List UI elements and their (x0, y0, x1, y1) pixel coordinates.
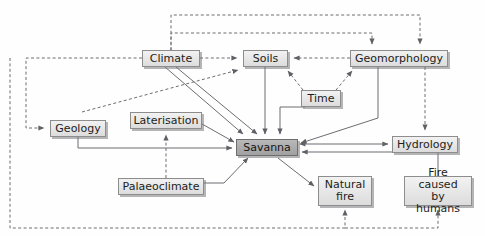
edge-time-soils (288, 71, 303, 90)
node-laterisation[interactable]: Laterisation (130, 112, 202, 129)
edge-geology-savanna (78, 137, 232, 148)
edge-palaeoclimate-savanna (204, 158, 248, 183)
node-fire-caused-by-humans[interactable]: Fire causedby humans (404, 176, 472, 206)
node-label: Palaeoclimate (123, 181, 200, 193)
node-label: Time (308, 93, 335, 105)
node-geology[interactable]: Geology (50, 120, 106, 137)
node-label: Naturalfire (325, 179, 366, 203)
edge-time-geomorphology (336, 71, 352, 90)
node-label: Geology (55, 123, 100, 135)
node-geomorphology[interactable]: Geomorphology (350, 50, 448, 67)
node-label: Soils (253, 53, 279, 65)
node-label: Hydrology (397, 139, 453, 151)
node-palaeoclimate[interactable]: Palaeoclimate (118, 178, 204, 195)
node-hydrology[interactable]: Hydrology (392, 136, 458, 153)
node-climate[interactable]: Climate (142, 50, 200, 67)
node-label: Climate (150, 53, 192, 65)
diagram-canvas: Climate Soils Geomorphology Time Geology… (0, 0, 485, 236)
node-label: Savanna (243, 142, 291, 154)
edge-laterisation-savanna (202, 124, 234, 142)
edge-geology-soils (82, 70, 238, 112)
edge-climate-geology (26, 58, 142, 128)
edge-time-savanna (280, 107, 305, 134)
node-label: Laterisation (133, 115, 198, 127)
node-time[interactable]: Time (301, 90, 341, 107)
edge-savanna-natural-fire (278, 158, 314, 186)
node-savanna[interactable]: Savanna (236, 139, 298, 156)
node-label: Geomorphology (355, 53, 443, 65)
node-label: Fire causedby humans (408, 167, 468, 215)
node-natural-fire[interactable]: Naturalfire (318, 176, 372, 206)
node-soils[interactable]: Soils (243, 50, 288, 67)
